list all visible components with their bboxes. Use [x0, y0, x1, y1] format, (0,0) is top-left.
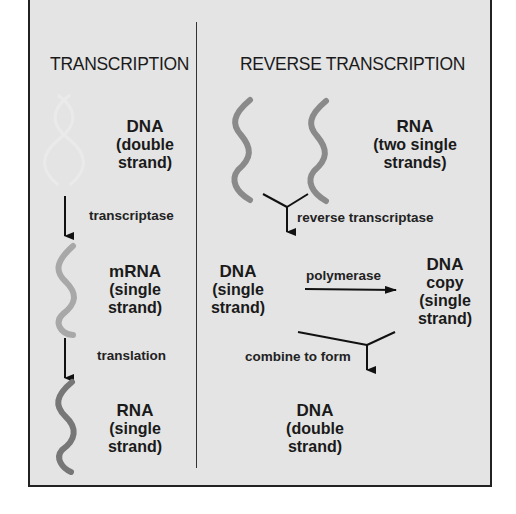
- ghost-helix-icon: [45, 95, 84, 185]
- rna-two-strands-label: RNA (two single strands): [365, 118, 465, 172]
- rna-strand-2-icon: [310, 101, 326, 201]
- rna-strand-icon: [58, 382, 74, 472]
- polymerase-arrow: [305, 289, 396, 290]
- translation-label: translation: [97, 348, 166, 363]
- dna-double-result-label: DNA (double strand): [280, 402, 350, 456]
- mrna-strand-icon: [58, 246, 74, 335]
- rna-strand-1-icon: [234, 100, 250, 200]
- reverse-transcription-heading: REVERSE TRANSCRIPTION: [240, 53, 465, 75]
- mrna-single-label: mRNA (single strand): [100, 263, 170, 317]
- combine-to-form-label: combine to form: [245, 349, 351, 364]
- polymerase-label: polymerase: [306, 268, 381, 283]
- rna-single-label: RNA (single strand): [100, 402, 170, 456]
- molecule-name: DNA: [100, 118, 190, 136]
- transcription-heading: TRANSCRIPTION: [50, 53, 189, 75]
- reverse-transcriptase-label: reverse transcriptase: [297, 210, 434, 225]
- dna-copy-label: DNA copy (single strand): [415, 256, 475, 328]
- dna-double-label: DNA (double strand): [100, 118, 190, 172]
- dna-single-label: DNA (single strand): [208, 263, 268, 317]
- transcriptase-label: transcriptase: [89, 208, 174, 223]
